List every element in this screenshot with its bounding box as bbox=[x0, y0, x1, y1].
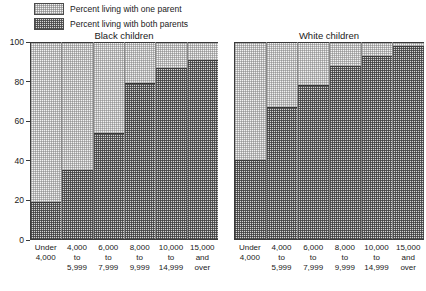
panel-title-white-children: White children bbox=[234, 29, 424, 42]
x-category-black-4: 10,000 to 14,999 bbox=[155, 243, 186, 273]
bars-white-children bbox=[234, 42, 424, 240]
bar-black-3 bbox=[125, 42, 156, 239]
plot-area-black-children bbox=[30, 42, 218, 240]
y-tick-0: 0 bbox=[19, 235, 30, 245]
y-tick-label: 60 bbox=[15, 116, 24, 126]
segment-one-parent bbox=[125, 42, 155, 83]
y-tick-20: 20 bbox=[15, 195, 30, 205]
bar-white-4 bbox=[362, 42, 394, 239]
y-tick-label: 80 bbox=[15, 77, 24, 87]
light-stipple-swatch-icon bbox=[34, 3, 64, 15]
x-category-black-0: Under 4,000 bbox=[30, 243, 61, 273]
segment-both-parents bbox=[31, 202, 61, 239]
panel-white-children: White children Under 4,0004,000 to 5,999… bbox=[234, 29, 424, 273]
segment-both-parents bbox=[188, 60, 218, 239]
legend-item-one-parent: Percent living with one parent bbox=[34, 2, 234, 15]
segment-both-parents bbox=[235, 160, 266, 239]
legend-label-one-parent: Percent living with one parent bbox=[70, 3, 182, 15]
x-category-black-3: 8,000 to 9,999 bbox=[124, 243, 155, 273]
y-tick-60: 60 bbox=[15, 116, 30, 126]
x-category-black-2: 6,000 to 7,999 bbox=[93, 243, 124, 273]
bar-black-5 bbox=[188, 42, 218, 239]
x-category-black-5: 15,000 and over bbox=[187, 243, 218, 273]
bars-black-children bbox=[30, 42, 218, 240]
bar-black-2 bbox=[94, 42, 125, 239]
y-tick-label: 100 bbox=[10, 37, 24, 47]
chart-legend: Percent living with one parent Percent l… bbox=[34, 2, 234, 32]
segment-both-parents bbox=[298, 85, 329, 239]
x-axis-black-children: Under 4,0004,000 to 5,9996,000 to 7,9998… bbox=[30, 243, 218, 273]
y-tick-80: 80 bbox=[15, 77, 30, 87]
bar-white-0 bbox=[235, 42, 267, 239]
plot-area-white-children bbox=[234, 42, 424, 240]
y-tick-100: 100 bbox=[10, 37, 30, 47]
segment-one-parent bbox=[235, 42, 266, 160]
segment-both-parents bbox=[330, 66, 361, 239]
segment-both-parents bbox=[156, 68, 186, 239]
segment-both-parents bbox=[62, 170, 92, 239]
bar-black-1 bbox=[62, 42, 93, 239]
segment-one-parent bbox=[298, 42, 329, 85]
x-category-white-4: 10,000 to 14,999 bbox=[361, 243, 393, 273]
y-tick-40: 40 bbox=[15, 156, 30, 166]
panel-black-children: Black children Under 4,0004,000 to 5,999… bbox=[30, 29, 218, 273]
bar-white-3 bbox=[330, 42, 362, 239]
bar-white-1 bbox=[267, 42, 299, 239]
bar-black-0 bbox=[31, 42, 62, 239]
x-category-white-0: Under 4,000 bbox=[234, 243, 266, 273]
segment-one-parent bbox=[62, 42, 92, 170]
y-tick-label: 40 bbox=[15, 156, 24, 166]
panel-title-black-children: Black children bbox=[30, 29, 218, 42]
legend-label-both-parents: Percent living with both parents bbox=[70, 18, 188, 30]
segment-one-parent bbox=[330, 42, 361, 66]
y-tick-label: 20 bbox=[15, 195, 24, 205]
segment-one-parent bbox=[362, 42, 393, 56]
segment-both-parents bbox=[94, 133, 124, 239]
x-category-white-1: 4,000 to 5,999 bbox=[266, 243, 298, 273]
segment-one-parent bbox=[94, 42, 124, 133]
segment-both-parents bbox=[362, 56, 393, 239]
segment-both-parents bbox=[125, 83, 155, 239]
y-axis: 100 80 60 40 20 0 bbox=[0, 42, 30, 240]
segment-both-parents bbox=[393, 46, 424, 239]
segment-one-parent bbox=[156, 42, 186, 68]
x-axis-white-children: Under 4,0004,000 to 5,9996,000 to 7,9998… bbox=[234, 243, 424, 273]
segment-one-parent bbox=[267, 42, 298, 107]
segment-one-parent bbox=[188, 42, 218, 60]
bar-white-2 bbox=[298, 42, 330, 239]
segment-both-parents bbox=[267, 107, 298, 239]
x-category-white-3: 8,000 to 9,999 bbox=[329, 243, 361, 273]
segment-one-parent bbox=[31, 42, 61, 202]
x-category-white-2: 6,000 to 7,999 bbox=[297, 243, 329, 273]
x-category-black-1: 4,000 to 5,999 bbox=[61, 243, 92, 273]
dark-stipple-swatch-icon bbox=[34, 18, 64, 30]
bar-white-5 bbox=[393, 42, 424, 239]
y-tick-label: 0 bbox=[19, 235, 24, 245]
bar-black-4 bbox=[156, 42, 187, 239]
x-category-white-5: 15,000 and over bbox=[392, 243, 424, 273]
stacked-bar-chart-figure: Percent living with one parent Percent l… bbox=[0, 0, 426, 291]
